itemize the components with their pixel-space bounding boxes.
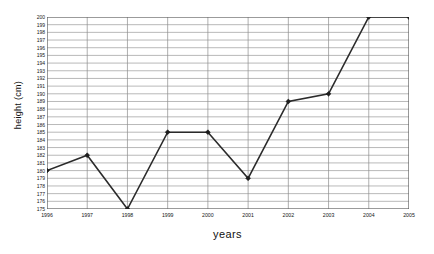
- x-tick-label: 2003: [323, 212, 335, 218]
- plot-svg: [47, 17, 409, 209]
- y-tick-label: 188: [37, 107, 45, 112]
- x-tick-label: 1998: [122, 212, 134, 218]
- y-tick-label: 183: [37, 145, 45, 150]
- y-tick-label: 178: [37, 183, 45, 188]
- y-tick-label: 179: [37, 176, 45, 181]
- y-axis-tick-labels: 2001991981971961951941931921911901891881…: [24, 17, 45, 209]
- data-point-marker: [47, 168, 49, 173]
- axis-lines: [47, 17, 409, 209]
- y-tick-label: 190: [37, 91, 45, 96]
- y-tick-label: 200: [37, 15, 45, 20]
- y-tick-label: 195: [37, 53, 45, 58]
- y-tick-label: 182: [37, 153, 45, 158]
- x-tick-label: 1999: [162, 212, 174, 218]
- horizontal-gridlines: [47, 17, 409, 209]
- y-tick-label: 193: [37, 68, 45, 73]
- y-tick-label: 176: [37, 199, 45, 204]
- x-tick-label: 1996: [41, 212, 53, 218]
- x-axis-tick-labels: 1996199719981999200020012002200320042005: [47, 212, 409, 224]
- vertical-gridlines: [47, 17, 409, 209]
- y-tick-label: 194: [37, 61, 45, 66]
- x-tick-label: 2002: [283, 212, 295, 218]
- y-tick-label: 175: [37, 207, 45, 212]
- y-tick-label: 199: [37, 22, 45, 27]
- y-tick-label: 196: [37, 45, 45, 50]
- y-tick-label: 181: [37, 160, 45, 165]
- y-tick-label: 177: [37, 191, 45, 196]
- x-tick-label: 2004: [363, 212, 375, 218]
- x-tick-label: 2000: [202, 212, 214, 218]
- y-tick-label: 197: [37, 38, 45, 43]
- y-tick-label: 180: [37, 168, 45, 173]
- y-tick-label: 184: [37, 137, 45, 142]
- y-tick-label: 191: [37, 84, 45, 89]
- y-axis-title-label: height (cm): [13, 81, 23, 129]
- y-tick-label: 198: [37, 30, 45, 35]
- x-tick-label: 2005: [403, 212, 415, 218]
- x-axis-title-label: years: [213, 228, 242, 240]
- y-tick-label: 189: [37, 99, 45, 104]
- x-tick-label: 1997: [81, 212, 93, 218]
- plot-area: [47, 17, 409, 209]
- y-tick-label: 185: [37, 130, 45, 135]
- data-markers: [47, 17, 409, 209]
- y-tick-label: 192: [37, 76, 45, 81]
- line-chart: height (cm) 2001991981971961951941931921…: [0, 0, 434, 254]
- x-tick-label: 2001: [242, 212, 254, 218]
- y-tick-label: 186: [37, 122, 45, 127]
- data-point-marker: [407, 17, 409, 19]
- y-tick-label: 187: [37, 114, 45, 119]
- x-axis-title: years: [46, 228, 409, 240]
- data-line-height: [47, 17, 409, 209]
